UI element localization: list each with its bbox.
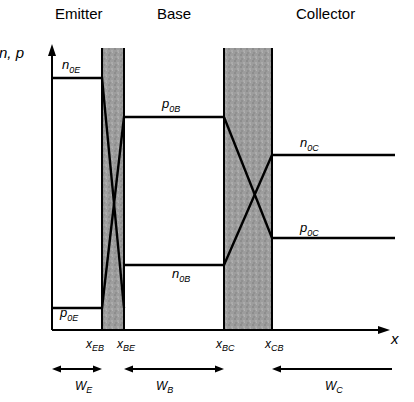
region-title-base: Base bbox=[157, 5, 191, 22]
depletion-region-base-collector bbox=[224, 48, 272, 330]
level-label-n0C-sub: 0C bbox=[307, 143, 319, 153]
x-tick-label-xBC: xBC bbox=[216, 337, 235, 353]
x-tick-xEB-sub: EB bbox=[92, 343, 104, 353]
width-arrow-emitter bbox=[52, 366, 102, 373]
y-axis bbox=[48, 44, 56, 330]
level-label-p0E: p0E bbox=[60, 305, 78, 323]
width-label-WE: WE bbox=[75, 379, 92, 395]
level-label-p0B-sub: 0B bbox=[169, 104, 180, 114]
width-label-WC-sub: C bbox=[336, 385, 343, 395]
level-label-n0B-sub: 0B bbox=[179, 274, 190, 284]
width-arrow-collector bbox=[272, 366, 392, 373]
level-label-p0C-sub: 0C bbox=[307, 228, 319, 238]
y-axis-label: n, p bbox=[0, 44, 24, 61]
width-arrow-base bbox=[124, 366, 224, 373]
width-label-WB-base: W bbox=[156, 379, 167, 393]
width-label-WC-base: W bbox=[325, 379, 336, 393]
level-label-p0E-sub: 0E bbox=[67, 313, 78, 323]
width-label-WB-sub: B bbox=[167, 385, 173, 395]
figure-canvas: Emitter Base Collector n, p x n0E p0B n0… bbox=[0, 0, 414, 402]
level-label-n0B: n0B bbox=[172, 266, 190, 284]
level-label-p0B: p0B bbox=[162, 96, 180, 114]
x-tick-xBC-sub: BC bbox=[222, 343, 235, 353]
x-tick-label-xBE: xBE bbox=[117, 337, 135, 353]
level-label-n0E: n0E bbox=[62, 57, 80, 75]
x-tick-xBE-sub: BE bbox=[123, 343, 135, 353]
width-label-WE-sub: E bbox=[86, 385, 92, 395]
width-label-WB: WB bbox=[156, 379, 173, 395]
level-label-n0E-sub: 0E bbox=[69, 65, 80, 75]
level-label-p0C: p0C bbox=[300, 220, 319, 238]
x-tick-label-xEB: xEB bbox=[86, 337, 104, 353]
region-title-collector: Collector bbox=[296, 5, 355, 22]
x-tick-xCB-sub: CB bbox=[271, 343, 284, 353]
x-tick-label-xCB: xCB bbox=[265, 337, 284, 353]
width-label-WE-base: W bbox=[75, 379, 86, 393]
x-axis-label: x bbox=[391, 330, 399, 347]
width-label-WC: WC bbox=[325, 379, 343, 395]
level-label-n0C: n0C bbox=[300, 135, 319, 153]
region-title-emitter: Emitter bbox=[55, 5, 103, 22]
